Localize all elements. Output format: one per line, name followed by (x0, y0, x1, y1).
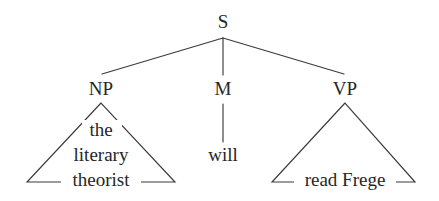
terminal-the: the (89, 119, 112, 140)
branch-s-to-np (102, 38, 223, 74)
syntax-tree-canvas: S NP M VP the literary theorist will rea… (0, 0, 439, 201)
terminal-theorist: theorist (73, 169, 131, 190)
node-label-m: M (215, 78, 232, 99)
node-label-vp: VP (333, 78, 357, 99)
terminal-literary: literary (74, 144, 129, 165)
branch-s-to-vp (223, 38, 344, 74)
syntax-tree-figure: S NP M VP the literary theorist will rea… (0, 0, 439, 201)
terminal-read-frege: read Frege (305, 169, 386, 190)
node-label-s: S (218, 11, 229, 32)
terminal-will: will (208, 144, 238, 165)
node-label-np: NP (89, 78, 113, 99)
